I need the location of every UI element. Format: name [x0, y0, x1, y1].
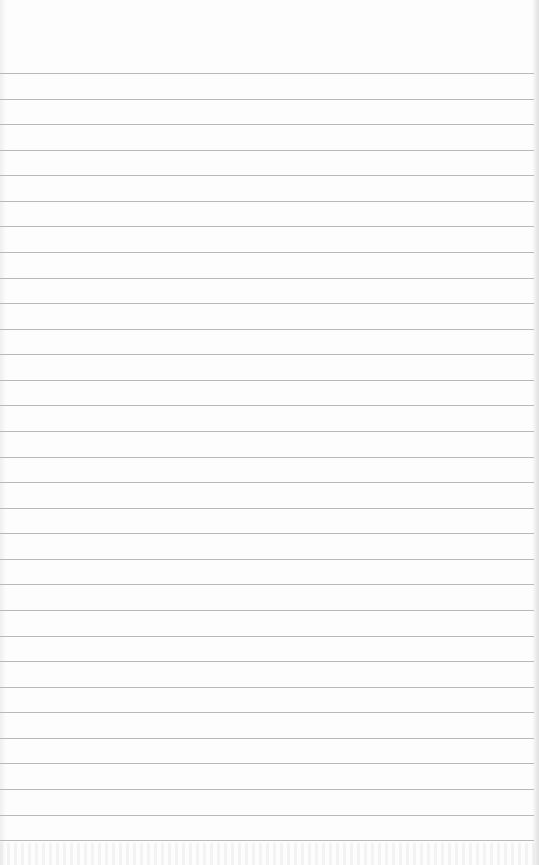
- bottom-bleed-through: [0, 843, 539, 865]
- ruled-line: [0, 636, 534, 637]
- ruled-line: [0, 124, 534, 125]
- ruled-line: [0, 584, 534, 585]
- ruled-line: [0, 457, 534, 458]
- ruled-line: [0, 508, 534, 509]
- ruled-line: [0, 738, 534, 739]
- ruled-line: [0, 431, 534, 432]
- ruled-line: [0, 329, 534, 330]
- left-edge-shadow: [0, 0, 6, 865]
- ruled-line: [0, 840, 534, 841]
- lined-paper-sheet: [0, 0, 539, 865]
- ruled-line: [0, 354, 534, 355]
- ruled-line: [0, 380, 534, 381]
- ruled-line: [0, 815, 534, 816]
- ruled-line: [0, 175, 534, 176]
- ruled-line: [0, 533, 534, 534]
- ruled-line: [0, 712, 534, 713]
- ruled-line: [0, 201, 534, 202]
- ruled-line: [0, 763, 534, 764]
- ruled-line: [0, 150, 534, 151]
- ruled-line: [0, 73, 534, 74]
- ruled-line: [0, 226, 534, 227]
- ruled-line: [0, 99, 534, 100]
- ruled-line: [0, 405, 534, 406]
- ruled-line: [0, 303, 534, 304]
- ruled-line: [0, 789, 534, 790]
- ruled-line: [0, 687, 534, 688]
- right-edge-shadow: [532, 0, 539, 865]
- ruled-line: [0, 559, 534, 560]
- ruled-line: [0, 610, 534, 611]
- ruled-line: [0, 661, 534, 662]
- ruled-line: [0, 482, 534, 483]
- ruled-line: [0, 252, 534, 253]
- ruled-line: [0, 278, 534, 279]
